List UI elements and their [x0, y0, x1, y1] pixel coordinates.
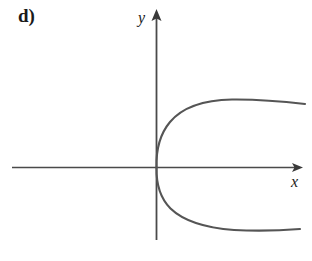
- y-axis-label: y: [138, 10, 145, 26]
- parabola-upper-branch: [156, 99, 305, 167]
- parabola-lower-branch: [156, 168, 300, 231]
- figure-container: d) y x: [0, 0, 312, 261]
- x-axis-label: x: [291, 174, 298, 190]
- plot-canvas: [0, 0, 312, 261]
